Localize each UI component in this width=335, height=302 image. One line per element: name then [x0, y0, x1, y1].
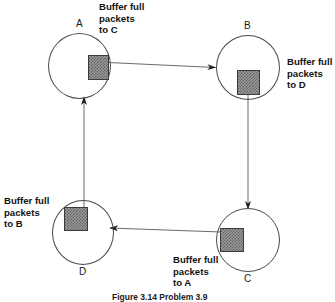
edge-c-to-d [110, 228, 221, 232]
figure-canvas: A Buffer full packets to C B Buffer full… [0, 0, 335, 302]
buffer-square-b [237, 70, 260, 95]
buffer-label-c: Buffer full packets to A [173, 254, 218, 289]
edge-a-to-b [108, 63, 216, 68]
buffer-label-d-line2: packets [4, 207, 49, 219]
buffer-square-a [88, 55, 109, 80]
buffer-label-b: Buffer full packets to D [287, 56, 332, 91]
buffer-label-c-line3: to A [173, 277, 218, 289]
buffer-label-c-line2: packets [173, 266, 218, 278]
buffer-label-b-line2: packets [287, 68, 332, 80]
edge-arrows-layer [0, 0, 335, 302]
buffer-label-a-line1: Buffer full [99, 1, 144, 13]
node-label-a: A [76, 19, 83, 30]
buffer-label-a-line3: to C [99, 24, 144, 36]
buffer-square-d [64, 207, 88, 231]
buffer-label-b-line3: to D [287, 79, 332, 91]
buffer-label-c-line1: Buffer full [173, 254, 218, 266]
buffer-square-c [220, 228, 244, 252]
buffer-label-b-line1: Buffer full [287, 56, 332, 68]
figure-caption: Figure 3.14 Problem 3.9 [112, 292, 207, 302]
node-label-d: D [79, 267, 86, 278]
node-label-c: C [244, 274, 251, 285]
buffer-label-d: Buffer full packets to B [4, 195, 49, 230]
buffer-label-a: Buffer full packets to C [99, 1, 144, 36]
buffer-label-a-line2: packets [99, 13, 144, 25]
buffer-label-d-line3: to B [4, 218, 49, 230]
node-label-b: B [244, 21, 251, 32]
buffer-label-d-line1: Buffer full [4, 195, 49, 207]
